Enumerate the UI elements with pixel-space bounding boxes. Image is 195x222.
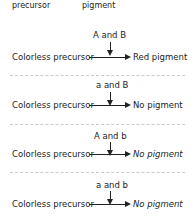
genotype-label: A and b bbox=[94, 132, 127, 141]
right-arrow-icon bbox=[89, 204, 127, 205]
divider bbox=[10, 172, 185, 173]
genotype-label: A and B bbox=[93, 31, 126, 40]
right-arrow-icon bbox=[89, 105, 127, 106]
output-label: No pigment bbox=[133, 101, 183, 110]
divider bbox=[10, 124, 185, 125]
output-label: No pigment bbox=[133, 150, 183, 159]
output-label: No pigment bbox=[133, 200, 183, 209]
header-precursor-label: precursor bbox=[12, 2, 50, 10]
right-arrowhead-icon bbox=[125, 201, 131, 207]
input-label: Colorless precursor bbox=[12, 101, 94, 110]
genotype-label: a and b bbox=[96, 181, 128, 190]
down-arrowhead-icon bbox=[107, 150, 113, 156]
right-arrow-icon bbox=[89, 57, 127, 58]
header-pigment-label: pigment bbox=[82, 2, 115, 10]
input-label: Colorless precursor bbox=[12, 53, 94, 62]
right-arrowhead-icon bbox=[125, 151, 131, 157]
right-arrow-icon bbox=[89, 154, 127, 155]
genotype-label: a and B bbox=[96, 81, 128, 90]
right-arrowhead-icon bbox=[125, 54, 131, 60]
down-arrowhead-icon bbox=[107, 50, 113, 56]
right-arrowhead-icon bbox=[125, 102, 131, 108]
output-label: Red pigment bbox=[133, 53, 187, 62]
input-label: Colorless precursor bbox=[12, 150, 94, 159]
input-label: Colorless precursor bbox=[12, 200, 94, 209]
divider bbox=[10, 75, 185, 76]
